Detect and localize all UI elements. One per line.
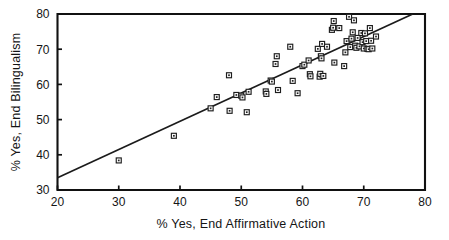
- data-point-marker: [234, 92, 239, 97]
- marker-center-dot: [334, 62, 336, 64]
- y-tick-label: 70: [36, 43, 50, 57]
- marker-center-dot: [357, 37, 359, 39]
- marker-center-dot: [363, 48, 365, 50]
- marker-center-dot: [266, 93, 268, 95]
- data-point-marker: [274, 54, 279, 59]
- marker-center-dot: [345, 52, 347, 54]
- y-tick-label: 40: [36, 148, 50, 162]
- x-tick-label: 50: [235, 195, 249, 209]
- data-point-marker: [347, 14, 352, 19]
- marker-center-dot: [321, 43, 323, 45]
- data-point-marker: [306, 58, 311, 63]
- data-point-marker: [331, 25, 336, 30]
- marker-center-dot: [326, 46, 328, 48]
- data-point-marker: [288, 44, 293, 49]
- x-axis-title: % Yes, End Affirmative Action: [157, 217, 326, 231]
- data-point-marker: [320, 41, 325, 46]
- x-tick-label: 30: [112, 195, 126, 209]
- x-tick-label: 60: [296, 195, 310, 209]
- data-point-marker: [227, 73, 232, 78]
- data-point-marker: [273, 61, 278, 66]
- marker-center-dot: [317, 48, 319, 50]
- scatter-plot-figure: 20304050607080 304050607080 % Yes, End A…: [0, 0, 449, 240]
- data-point-marker: [364, 39, 369, 44]
- x-tick-label: 80: [418, 195, 432, 209]
- marker-center-dot: [248, 91, 250, 93]
- data-point-marker: [374, 34, 379, 39]
- marker-center-dot: [228, 74, 230, 76]
- y-tick-label: 50: [36, 113, 50, 127]
- x-tick-label: 20: [51, 195, 65, 209]
- y-tick-label: 80: [36, 7, 50, 21]
- marker-center-dot: [210, 107, 212, 109]
- data-point-marker: [344, 39, 349, 44]
- data-point-marker: [319, 56, 324, 61]
- data-point-marker: [369, 38, 374, 43]
- data-point-marker: [367, 26, 372, 31]
- marker-center-dot: [216, 96, 218, 98]
- marker-center-dot: [375, 36, 377, 38]
- data-point-marker: [349, 36, 354, 41]
- marker-center-dot: [277, 89, 279, 91]
- data-point-marker: [276, 88, 281, 93]
- marker-center-dot: [321, 58, 323, 60]
- marker-center-dot: [368, 48, 370, 50]
- data-point-marker: [214, 95, 219, 100]
- data-point-marker: [308, 74, 313, 79]
- marker-center-dot: [365, 40, 367, 42]
- data-point-marker: [208, 106, 213, 111]
- data-point-marker: [351, 18, 356, 23]
- marker-center-dot: [353, 19, 355, 21]
- data-point-marker: [264, 91, 269, 96]
- marker-center-dot: [362, 41, 364, 43]
- marker-center-dot: [276, 55, 278, 57]
- data-point-marker: [240, 95, 245, 100]
- marker-center-dot: [303, 64, 305, 66]
- marker-center-dot: [275, 63, 277, 65]
- marker-center-dot: [118, 160, 120, 162]
- marker-center-dot: [322, 75, 324, 77]
- y-tick-label: 30: [36, 183, 50, 197]
- data-point-marker: [244, 110, 249, 115]
- data-point-marker: [342, 64, 347, 69]
- plot-canvas: 20304050607080 304050607080 % Yes, End A…: [0, 0, 449, 240]
- marker-center-dot: [333, 20, 335, 22]
- data-point-marker: [295, 91, 300, 96]
- data-point-marker: [315, 46, 320, 51]
- marker-center-dot: [371, 48, 373, 50]
- marker-center-dot: [348, 16, 350, 18]
- data-point-marker: [325, 44, 330, 49]
- data-point-marker: [348, 45, 353, 50]
- marker-center-dot: [297, 92, 299, 94]
- marker-center-dot: [236, 94, 238, 96]
- y-axis-title: % Yes, End Bilingualism: [9, 33, 23, 172]
- marker-center-dot: [370, 40, 372, 42]
- marker-center-dot: [246, 111, 248, 113]
- data-point-marker: [116, 158, 121, 163]
- data-point-marker: [246, 89, 251, 94]
- data-point-marker: [171, 133, 176, 138]
- marker-center-dot: [242, 97, 244, 99]
- data-point-marker: [337, 26, 342, 31]
- x-tick-label: 40: [173, 195, 187, 209]
- data-point-marker: [332, 60, 337, 65]
- x-tick-label: 70: [357, 195, 371, 209]
- marker-center-dot: [292, 80, 294, 82]
- marker-center-dot: [349, 46, 351, 48]
- marker-center-dot: [173, 135, 175, 137]
- marker-center-dot: [352, 31, 354, 33]
- marker-center-dot: [360, 32, 362, 34]
- data-point-marker: [355, 35, 360, 40]
- data-point-marker: [350, 30, 355, 35]
- data-point-marker: [227, 108, 232, 113]
- data-point-marker: [370, 46, 375, 51]
- marker-center-dot: [364, 33, 366, 35]
- data-point-marker: [290, 78, 295, 83]
- marker-center-dot: [308, 60, 310, 62]
- marker-center-dot: [289, 46, 291, 48]
- data-point-marker: [343, 50, 348, 55]
- y-tick-label: 60: [36, 78, 50, 92]
- marker-center-dot: [271, 81, 273, 83]
- marker-center-dot: [310, 75, 312, 77]
- data-point-marker: [331, 19, 336, 24]
